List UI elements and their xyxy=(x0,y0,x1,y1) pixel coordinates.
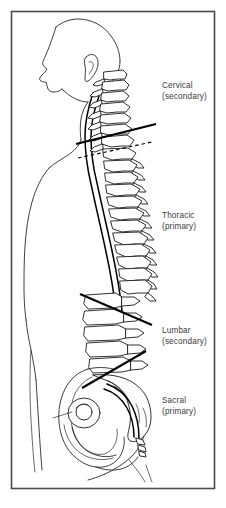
label-lumbar-qualifier: (secondary) xyxy=(162,337,207,346)
label-thoracic-name: Thoracic xyxy=(162,211,195,220)
label-thoracic-qualifier: (primary) xyxy=(162,222,196,231)
label-cervical-qualifier: (secondary) xyxy=(162,92,207,101)
label-sacral-qualifier: (primary) xyxy=(162,407,196,416)
spine-diagram-figure: Cervical (secondary) Thoracic (primary) … xyxy=(0,0,226,508)
label-sacral-name: Sacral xyxy=(162,396,186,405)
label-lumbar-name: Lumbar xyxy=(162,326,191,335)
spine-diagram-svg: Cervical (secondary) Thoracic (primary) … xyxy=(0,0,226,508)
label-cervical-name: Cervical xyxy=(162,81,193,90)
